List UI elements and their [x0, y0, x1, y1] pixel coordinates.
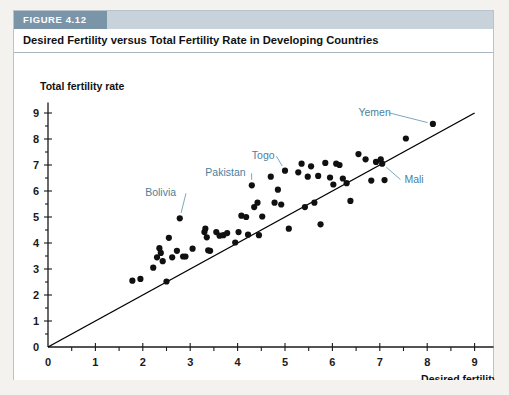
annotation-label: Mali	[404, 173, 423, 185]
x-tick-label: 3	[187, 356, 193, 368]
scatter-chart: 01234567890123456789 BoliviaPakistanTogo…	[14, 53, 495, 380]
data-point	[322, 160, 328, 166]
data-point	[174, 248, 180, 254]
x-tick-label: 9	[472, 356, 478, 368]
x-tick-label: 5	[282, 356, 288, 368]
annotation-leader-line	[386, 167, 400, 179]
data-point	[302, 204, 308, 210]
chart-annotations: BoliviaPakistanTogoYemenMali	[145, 106, 427, 213]
data-point	[224, 230, 230, 236]
annotation-label: Pakistan	[205, 166, 245, 178]
x-tick-label: 1	[92, 356, 98, 368]
x-tick-label: 6	[329, 356, 335, 368]
x-tick-label: 7	[377, 356, 383, 368]
y-tick-label: 6	[33, 185, 39, 197]
data-point	[271, 200, 277, 206]
y-tick-label: 2	[33, 289, 39, 301]
data-point	[430, 121, 436, 127]
data-point	[245, 232, 251, 238]
data-point	[336, 162, 342, 168]
y-axis-title: Total fertility rate	[40, 80, 125, 92]
data-point	[403, 135, 409, 141]
annotation-leader-line	[388, 113, 427, 123]
forty-five-degree-line	[48, 113, 475, 347]
data-point	[207, 248, 213, 254]
data-point	[268, 174, 274, 180]
y-tick-label: 7	[33, 159, 39, 171]
data-point	[150, 265, 156, 271]
x-tick-label: 0	[45, 356, 51, 368]
plot-area: 01234567890123456789 BoliviaPakistanTogo…	[14, 53, 493, 380]
axis-titles: Total fertility rateDesired fertility	[40, 80, 495, 380]
data-point	[189, 246, 195, 252]
data-point	[362, 156, 368, 162]
y-tick-label: 1	[33, 315, 39, 327]
data-point	[275, 187, 281, 193]
data-point	[315, 173, 321, 179]
x-tick-label: 4	[235, 356, 242, 368]
data-point	[368, 178, 374, 184]
y-tick-label: 9	[33, 107, 39, 119]
data-point	[282, 168, 288, 174]
data-point	[330, 181, 336, 187]
data-point	[379, 161, 385, 167]
data-point	[317, 221, 323, 227]
data-point	[254, 200, 260, 206]
data-point	[278, 201, 284, 207]
data-point	[327, 174, 333, 180]
figure-title: Desired Fertility versus Total Fertility…	[23, 30, 485, 51]
data-point	[249, 182, 255, 188]
figure-number-tag: FIGURE 4.12	[14, 11, 107, 29]
data-point	[137, 276, 143, 282]
data-point	[204, 234, 210, 240]
figure-card: FIGURE 4.12 Desired Fertility versus Tot…	[13, 10, 494, 380]
data-point	[163, 278, 169, 284]
data-point	[160, 258, 166, 264]
data-point	[177, 215, 183, 221]
annotation-label: Yemen	[358, 106, 390, 118]
data-point	[355, 151, 361, 157]
data-point	[298, 161, 304, 167]
y-tick-label: 0	[33, 341, 39, 353]
data-point	[158, 250, 164, 256]
x-tick-label: 8	[424, 356, 430, 368]
data-point	[202, 226, 208, 232]
y-tick-label: 3	[33, 263, 39, 275]
data-point	[344, 180, 350, 186]
reference-line	[48, 113, 475, 347]
annotation-label: Bolivia	[145, 186, 176, 198]
data-point	[256, 232, 262, 238]
data-point	[305, 174, 311, 180]
data-point	[232, 239, 238, 245]
data-point	[243, 214, 249, 220]
data-point	[169, 254, 175, 260]
x-axis-title: Desired fertility	[421, 373, 495, 380]
data-point	[259, 213, 265, 219]
data-point	[286, 226, 292, 232]
data-point	[182, 253, 188, 259]
data-point	[129, 278, 135, 284]
annotation-leader-line	[276, 156, 282, 166]
data-point	[308, 163, 314, 169]
annotation-leader-line	[181, 193, 186, 213]
data-point	[235, 229, 241, 235]
y-tick-label: 4	[33, 237, 40, 249]
data-points	[129, 121, 436, 285]
chart-axes: 01234567890123456789	[33, 103, 494, 368]
y-tick-label: 5	[33, 211, 39, 223]
x-tick-label: 2	[140, 356, 146, 368]
data-point	[166, 235, 172, 241]
data-point	[347, 198, 353, 204]
data-point	[311, 200, 317, 206]
y-tick-label: 8	[33, 133, 39, 145]
data-point	[295, 169, 301, 175]
data-point	[381, 177, 387, 183]
annotation-label: Togo	[252, 149, 275, 161]
